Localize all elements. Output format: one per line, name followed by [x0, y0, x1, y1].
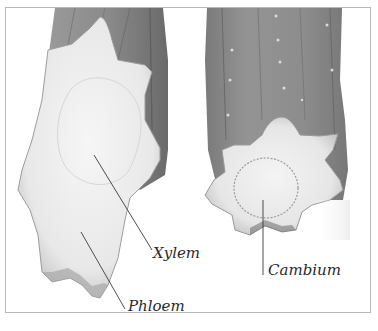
cambium-label: Cambium: [268, 263, 341, 278]
xylem-label: Xylem: [153, 246, 200, 261]
left-stem: [18, 8, 168, 298]
right-stem: [205, 8, 350, 240]
stem-illustration: [0, 0, 378, 331]
phloem-label: Phloem: [128, 299, 185, 314]
